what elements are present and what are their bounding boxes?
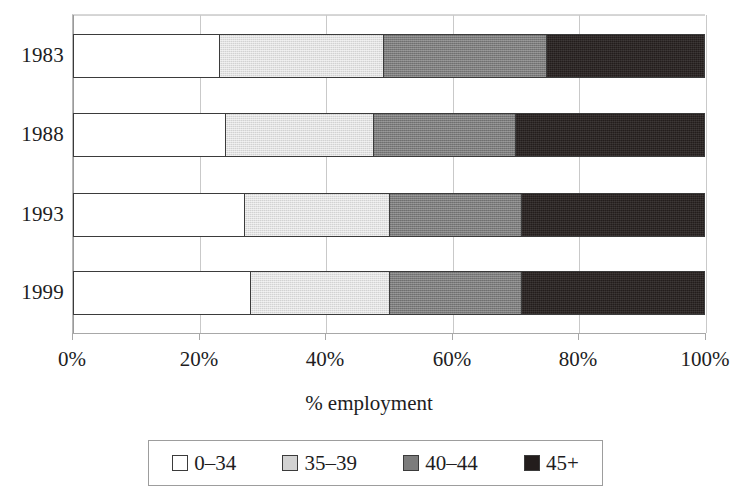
black-swatch-icon — [524, 455, 540, 471]
legend-item-label: 35–39 — [304, 452, 357, 474]
gridline-100 — [706, 15, 707, 333]
x-tick-label-100: 100% — [681, 348, 730, 370]
x-axis-title: % employment — [0, 392, 738, 414]
y-axis-label-1993: 1993 — [0, 204, 64, 225]
bar-row — [73, 34, 705, 78]
bar-segment — [389, 194, 521, 236]
light-gray-swatch-icon — [282, 455, 298, 471]
x-tick-100 — [705, 333, 706, 340]
x-tick-label-0: 0% — [58, 348, 86, 370]
legend-item[interactable]: 35–39 — [282, 452, 357, 474]
x-tick-80 — [578, 333, 579, 340]
legend-item-label: 45+ — [546, 452, 579, 474]
y-axis-label-1999: 1999 — [0, 282, 64, 303]
plot-top-rule — [73, 15, 705, 16]
mid-gray-swatch-icon — [403, 455, 419, 471]
bar-segment — [74, 272, 250, 314]
legend-item-label: 40–44 — [425, 452, 478, 474]
bar-segment — [373, 114, 515, 156]
bar-segment — [74, 114, 225, 156]
legend-item[interactable]: 45+ — [524, 452, 579, 474]
x-tick-20 — [199, 333, 200, 340]
legend-item[interactable]: 40–44 — [403, 452, 478, 474]
x-tick-label-60: 60% — [433, 348, 472, 370]
bar-segment — [389, 272, 521, 314]
bar-segment — [515, 114, 704, 156]
bar-segment — [225, 114, 373, 156]
bar-row — [73, 193, 705, 237]
white-swatch-icon — [172, 455, 188, 471]
bar-segment — [521, 272, 704, 314]
x-tick-40 — [325, 333, 326, 340]
x-tick-label-80: 80% — [559, 348, 598, 370]
bar-segment — [521, 194, 704, 236]
bar-segment — [74, 35, 219, 77]
y-axis-label-1983: 1983 — [0, 45, 64, 66]
stacked-bar-chart: 1983198819931999 0%20%40%60%80%100% % em… — [0, 0, 738, 490]
legend-item[interactable]: 0–34 — [172, 452, 236, 474]
bar-segment — [219, 35, 383, 77]
bar-segment — [383, 35, 547, 77]
y-axis-label-1988: 1988 — [0, 124, 64, 145]
bar-row — [73, 271, 705, 315]
x-tick-label-20: 20% — [180, 348, 219, 370]
bar-segment — [250, 272, 389, 314]
x-axis-line — [72, 333, 706, 334]
x-tick-label-40: 40% — [306, 348, 345, 370]
bar-row — [73, 113, 705, 157]
plot-area — [72, 14, 705, 333]
legend-item-label: 0–34 — [194, 452, 236, 474]
legend: 0–34 35–39 40–44 45+ — [148, 440, 603, 486]
bar-segment — [244, 194, 389, 236]
x-tick-0 — [72, 333, 73, 340]
bar-segment — [74, 194, 244, 236]
bar-segment — [546, 35, 704, 77]
x-tick-60 — [452, 333, 453, 340]
